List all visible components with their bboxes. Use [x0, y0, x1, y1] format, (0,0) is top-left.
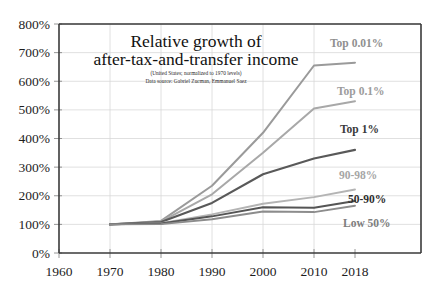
series-label-top-0-1: Top 0.1%	[337, 85, 385, 98]
y-axis-tick-label: 400%	[19, 131, 51, 146]
series-label-top-0-01: Top 0.01%	[330, 37, 383, 50]
y-axis-tick-label: 500%	[19, 102, 51, 117]
x-axis-tick-label: 1960	[46, 264, 73, 279]
x-axis-tick-label: 1990	[199, 264, 226, 279]
y-axis-ticks	[54, 24, 62, 253]
series-line-top-0-01	[110, 63, 355, 225]
x-axis-tick-label: 2018	[342, 264, 369, 279]
title-line-1: Relative growth of	[130, 31, 261, 51]
subtitle-normalization-note: (United States; normalized to 1970 level…	[150, 70, 241, 77]
x-axis-tick-label: 1980	[148, 264, 175, 279]
subtitle-data-source: Data source: Gabriel Zucman, Emmanuel Sa…	[145, 78, 247, 84]
series-label-low-50: Low 50%	[343, 217, 391, 229]
income-growth-line-chart: 0%100%200%300%400%500%600%700%800% 19601…	[0, 0, 432, 296]
series-label-top-1: Top 1%	[340, 123, 379, 136]
y-axis-tick-label: 0%	[32, 246, 50, 261]
x-axis-tick-labels: 1960197019801990200020102018	[46, 264, 369, 279]
series-line-50-90	[110, 201, 355, 224]
y-axis-tick-label: 800%	[19, 17, 51, 32]
x-axis-tick-label: 1970	[97, 264, 124, 279]
series-label-50-90: 50-90%	[348, 193, 386, 205]
series-labels: Top 0.01%Top 0.1%Top 1%90-98%50-90%Low 5…	[330, 37, 391, 229]
y-axis-tick-label: 300%	[19, 160, 51, 175]
data-series-lines	[110, 63, 355, 225]
chart-title: Relative growth of after-tax-and-transfe…	[93, 31, 298, 84]
series-line-top-0-1	[110, 101, 355, 224]
y-axis-tick-label: 100%	[19, 217, 51, 232]
chart-container: 0%100%200%300%400%500%600%700%800% 19601…	[0, 0, 432, 296]
y-axis-tick-label: 200%	[19, 188, 51, 203]
x-axis-tick-label: 2000	[250, 264, 277, 279]
series-label-90-98: 90-98%	[339, 169, 377, 181]
x-axis-tick-label: 2010	[301, 264, 328, 279]
y-axis-tick-label: 600%	[19, 74, 51, 89]
title-line-2: after-tax-and-transfer income	[93, 49, 298, 69]
y-axis-tick-labels: 0%100%200%300%400%500%600%700%800%	[19, 17, 51, 261]
y-axis-tick-label: 700%	[19, 45, 51, 60]
